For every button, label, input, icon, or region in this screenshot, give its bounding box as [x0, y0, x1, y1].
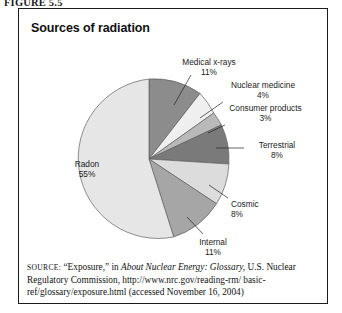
- pie-label-terrestrial: Terrestrial 8%: [245, 140, 309, 160]
- pie-label-nuclear-medicine: Nuclear medicine 4%: [215, 80, 311, 100]
- source-note: SOURCE: “Exposure,” in About Nuclear Ene…: [27, 261, 321, 299]
- source-note-prefix: SOURCE:: [27, 263, 61, 272]
- source-note-text-1: “Exposure,” in: [61, 262, 121, 272]
- pie-label-internal: Internal 11%: [185, 237, 241, 257]
- pie-label-cosmic-name: Cosmic: [231, 199, 295, 209]
- pie-label-medical-xrays: Medical x-rays 11%: [167, 57, 251, 77]
- pie-label-internal-name: Internal: [185, 237, 241, 247]
- pie-label-radon-name: Radon: [59, 159, 115, 169]
- pie-label-radon: Radon 55%: [59, 159, 115, 179]
- pie-label-terrestrial-name: Terrestrial: [245, 140, 309, 150]
- pie-label-radon-value: 55%: [59, 169, 115, 179]
- source-note-italic-title: About Nuclear Energy: Glossary,: [121, 262, 245, 272]
- pie-label-medical-xrays-value: 11%: [167, 67, 251, 77]
- pie-label-consumer-products: Consumer products 3%: [215, 103, 316, 123]
- pie-label-cosmic-value: 8%: [231, 209, 295, 219]
- pie-label-cosmic: Cosmic 8%: [231, 199, 295, 219]
- pie-label-consumer-products-value: 3%: [215, 113, 316, 123]
- pie-label-terrestrial-value: 8%: [245, 150, 309, 160]
- pie-label-internal-value: 11%: [185, 247, 241, 257]
- pie-label-nuclear-medicine-name: Nuclear medicine: [215, 80, 311, 90]
- pie-label-nuclear-medicine-value: 4%: [215, 90, 311, 100]
- figure-container: Sources of radiation: [18, 8, 328, 304]
- pie-label-consumer-products-name: Consumer products: [215, 103, 316, 113]
- pie-label-medical-xrays-name: Medical x-rays: [167, 57, 251, 67]
